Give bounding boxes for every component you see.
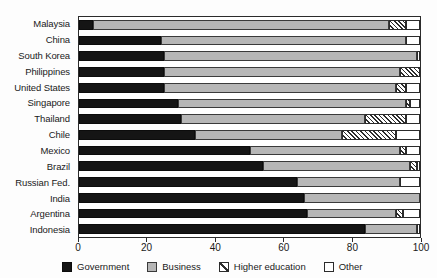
stacked-bar-chart: MalaysiaChinaSouth KoreaPhilippinesUnite…: [0, 0, 437, 278]
business-segment: [263, 161, 410, 171]
government-segment: [79, 99, 178, 109]
category-label: Singapore: [0, 95, 74, 111]
legend-label: Other: [339, 262, 363, 272]
legend-item[interactable]: Other: [324, 262, 363, 272]
bar-row: [79, 111, 420, 127]
business-segment: [164, 51, 416, 61]
other-segment: [417, 161, 420, 171]
stacked-bar: [79, 20, 420, 30]
government-segment: [79, 114, 181, 124]
bar-row: [79, 64, 420, 80]
category-label: Philippines: [0, 64, 74, 80]
business-swatch: [147, 262, 157, 272]
bar-row: [79, 48, 420, 64]
business-segment: [164, 83, 396, 93]
government-segment: [79, 224, 365, 234]
stacked-bar: [79, 51, 420, 61]
x-axis-tick-label: 80: [347, 243, 358, 253]
other-segment: [400, 177, 420, 187]
category-label: Malaysia: [0, 16, 74, 32]
government-segment: [79, 209, 307, 219]
government-segment: [79, 67, 164, 77]
higher-education-segment: [410, 161, 417, 171]
legend-item[interactable]: Government: [62, 262, 129, 272]
category-label: India: [0, 190, 74, 206]
government-segment: [79, 161, 263, 171]
other-segment: [417, 51, 420, 61]
stacked-bar: [79, 193, 420, 203]
x-axis-tick-label: 0: [75, 243, 81, 253]
business-segment: [250, 146, 400, 156]
category-label: Russian Fed.: [0, 175, 74, 191]
stacked-bar: [79, 209, 420, 219]
category-label: China: [0, 32, 74, 48]
category-label: Argentina: [0, 206, 74, 222]
other-segment: [406, 114, 420, 124]
bar-row: [79, 33, 420, 49]
business-segment: [164, 67, 399, 77]
other-segment: [406, 36, 420, 46]
y-axis-category-labels: MalaysiaChinaSouth KoreaPhilippinesUnite…: [0, 16, 74, 238]
business-segment: [365, 224, 416, 234]
other-segment: [406, 146, 420, 156]
bar-row: [79, 80, 420, 96]
bar-row: [79, 190, 420, 206]
government-segment: [79, 51, 164, 61]
higher-education-segment: [396, 83, 406, 93]
higher-education-segment: [365, 114, 406, 124]
bar-rows: [79, 17, 420, 237]
x-axis-tick-label: 40: [210, 243, 221, 253]
legend-item[interactable]: Higher education: [219, 262, 306, 272]
legend-label: Higher education: [234, 262, 306, 272]
other-segment: [410, 99, 420, 109]
bar-row: [79, 96, 420, 112]
other-segment: [403, 209, 420, 219]
bar-row: [79, 143, 420, 159]
category-label: South Korea: [0, 48, 74, 64]
bar-row: [79, 17, 420, 33]
stacked-bar: [79, 36, 420, 46]
higher-education-segment: [396, 209, 403, 219]
higher-education-segment: [342, 130, 397, 140]
category-label: United States: [0, 79, 74, 95]
government-segment: [79, 177, 297, 187]
legend-item[interactable]: Business: [147, 262, 201, 272]
higher-education-segment: [389, 20, 406, 30]
government-swatch: [62, 262, 72, 272]
government-segment: [79, 193, 304, 203]
higher-education-segment: [400, 146, 407, 156]
stacked-bar: [79, 224, 420, 234]
stacked-bar: [79, 130, 420, 140]
stacked-bar: [79, 67, 420, 77]
category-label: Indonesia: [0, 222, 74, 238]
business-segment: [304, 193, 420, 203]
legend-label: Government: [77, 262, 129, 272]
business-segment: [178, 99, 406, 109]
business-segment: [181, 114, 365, 124]
legend-label: Business: [162, 262, 201, 272]
government-segment: [79, 146, 250, 156]
stacked-bar: [79, 161, 420, 171]
government-segment: [79, 20, 93, 30]
category-label: Mexico: [0, 143, 74, 159]
other-segment: [417, 224, 420, 234]
government-segment: [79, 130, 195, 140]
category-label: Brazil: [0, 159, 74, 175]
bar-row: [79, 158, 420, 174]
other-segment: [406, 20, 420, 30]
stacked-bar: [79, 83, 420, 93]
government-segment: [79, 36, 161, 46]
higher-education-swatch: [219, 262, 229, 272]
bar-row: [79, 221, 420, 237]
plot-area: [78, 16, 421, 238]
x-axis-tick-label: 60: [278, 243, 289, 253]
bar-row: [79, 174, 420, 190]
higher-education-segment: [400, 67, 420, 77]
business-segment: [161, 36, 407, 46]
other-segment: [396, 130, 420, 140]
business-segment: [195, 130, 342, 140]
bar-row: [79, 127, 420, 143]
business-segment: [93, 20, 390, 30]
stacked-bar: [79, 146, 420, 156]
bar-row: [79, 206, 420, 222]
